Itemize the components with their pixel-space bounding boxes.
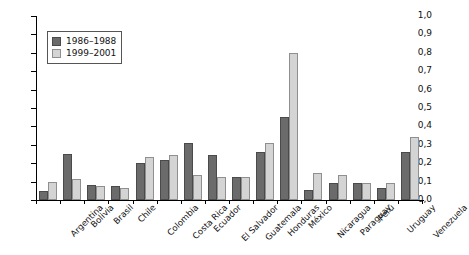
bar-nicaragua-series-1 bbox=[313, 173, 322, 200]
bar-brasil-series-1 bbox=[96, 186, 105, 200]
x-axis-tick-label: Chile bbox=[136, 203, 157, 224]
x-axis-tick bbox=[253, 200, 254, 204]
x-axis-tick bbox=[350, 200, 351, 204]
bar-group bbox=[301, 16, 325, 200]
bar-uruguay-series-1 bbox=[386, 183, 395, 200]
bar-brasil-series-0 bbox=[87, 185, 96, 200]
bar-ecuador-series-0 bbox=[184, 143, 193, 200]
bar-chile-series-1 bbox=[120, 188, 129, 200]
bar-colombia-series-1 bbox=[145, 157, 154, 200]
bar-el-salvador-series-1 bbox=[217, 177, 226, 200]
x-axis-tick bbox=[181, 200, 182, 204]
x-axis-tick bbox=[157, 200, 158, 204]
legend-item-0-label: 1986–1988 bbox=[66, 37, 116, 46]
x-axis-tick-label: Brasil bbox=[112, 203, 135, 226]
x-axis-tick bbox=[277, 200, 278, 204]
bar-bolivia-series-1 bbox=[72, 179, 81, 200]
x-axis-tick bbox=[133, 200, 134, 204]
bar-méxico-series-1 bbox=[289, 53, 298, 200]
bar-group bbox=[205, 16, 229, 200]
x-axis-tick bbox=[84, 200, 85, 204]
bar-venezuela-series-0 bbox=[401, 152, 410, 200]
x-axis-tick bbox=[301, 200, 302, 204]
x-axis-tick bbox=[374, 200, 375, 204]
bar-paraguay-series-0 bbox=[329, 183, 338, 200]
bar-perú-series-0 bbox=[353, 183, 362, 200]
x-axis-tick bbox=[229, 200, 230, 204]
x-axis-tick-label: Perú bbox=[376, 203, 396, 223]
bar-méxico-series-0 bbox=[280, 117, 289, 200]
bar-argentina-series-0 bbox=[39, 191, 48, 200]
x-axis-line bbox=[36, 200, 424, 201]
bar-group bbox=[133, 16, 157, 200]
bar-group bbox=[326, 16, 350, 200]
bar-honduras-series-0 bbox=[256, 152, 265, 200]
bar-bolivia-series-0 bbox=[63, 154, 72, 200]
bar-guatemala-series-0 bbox=[232, 177, 241, 200]
x-axis-tick bbox=[205, 200, 206, 204]
legend-item-1: 1999–2001 bbox=[52, 48, 116, 59]
bar-group bbox=[350, 16, 374, 200]
bar-uruguay-series-0 bbox=[377, 188, 386, 200]
x-axis-tick bbox=[422, 200, 423, 204]
bar-group bbox=[181, 16, 205, 200]
x-axis-tick bbox=[60, 200, 61, 204]
bar-argentina-series-1 bbox=[48, 182, 57, 200]
bar-ecuador-series-1 bbox=[193, 175, 202, 200]
x-axis-tick bbox=[398, 200, 399, 204]
series-0-swatch bbox=[52, 37, 61, 46]
bar-group bbox=[229, 16, 253, 200]
bar-nicaragua-series-0 bbox=[304, 190, 313, 200]
bar-group bbox=[277, 16, 301, 200]
bar-chile-series-0 bbox=[111, 186, 120, 200]
x-axis-tick bbox=[36, 200, 37, 204]
bar-group bbox=[253, 16, 277, 200]
bar-group bbox=[374, 16, 398, 200]
bar-group bbox=[157, 16, 181, 200]
bar-guatemala-series-1 bbox=[241, 177, 250, 200]
bar-costa-rica-series-1 bbox=[169, 155, 178, 200]
legend-item-0: 1986–1988 bbox=[52, 36, 116, 47]
bar-paraguay-series-1 bbox=[338, 175, 347, 200]
bar-group bbox=[398, 16, 422, 200]
x-axis-tick bbox=[108, 200, 109, 204]
legend-item-1-label: 1999–2001 bbox=[66, 49, 116, 58]
bar-colombia-series-0 bbox=[136, 163, 145, 200]
bar-honduras-series-1 bbox=[265, 143, 274, 200]
bar-perú-series-1 bbox=[362, 183, 371, 200]
x-axis-tick bbox=[326, 200, 327, 204]
bar-el-salvador-series-0 bbox=[208, 155, 217, 200]
chart-legend: 1986–1988 1999–2001 bbox=[47, 31, 122, 64]
series-1-swatch bbox=[52, 49, 61, 58]
bar-venezuela-series-1 bbox=[410, 137, 419, 200]
bar-costa-rica-series-0 bbox=[160, 160, 169, 200]
